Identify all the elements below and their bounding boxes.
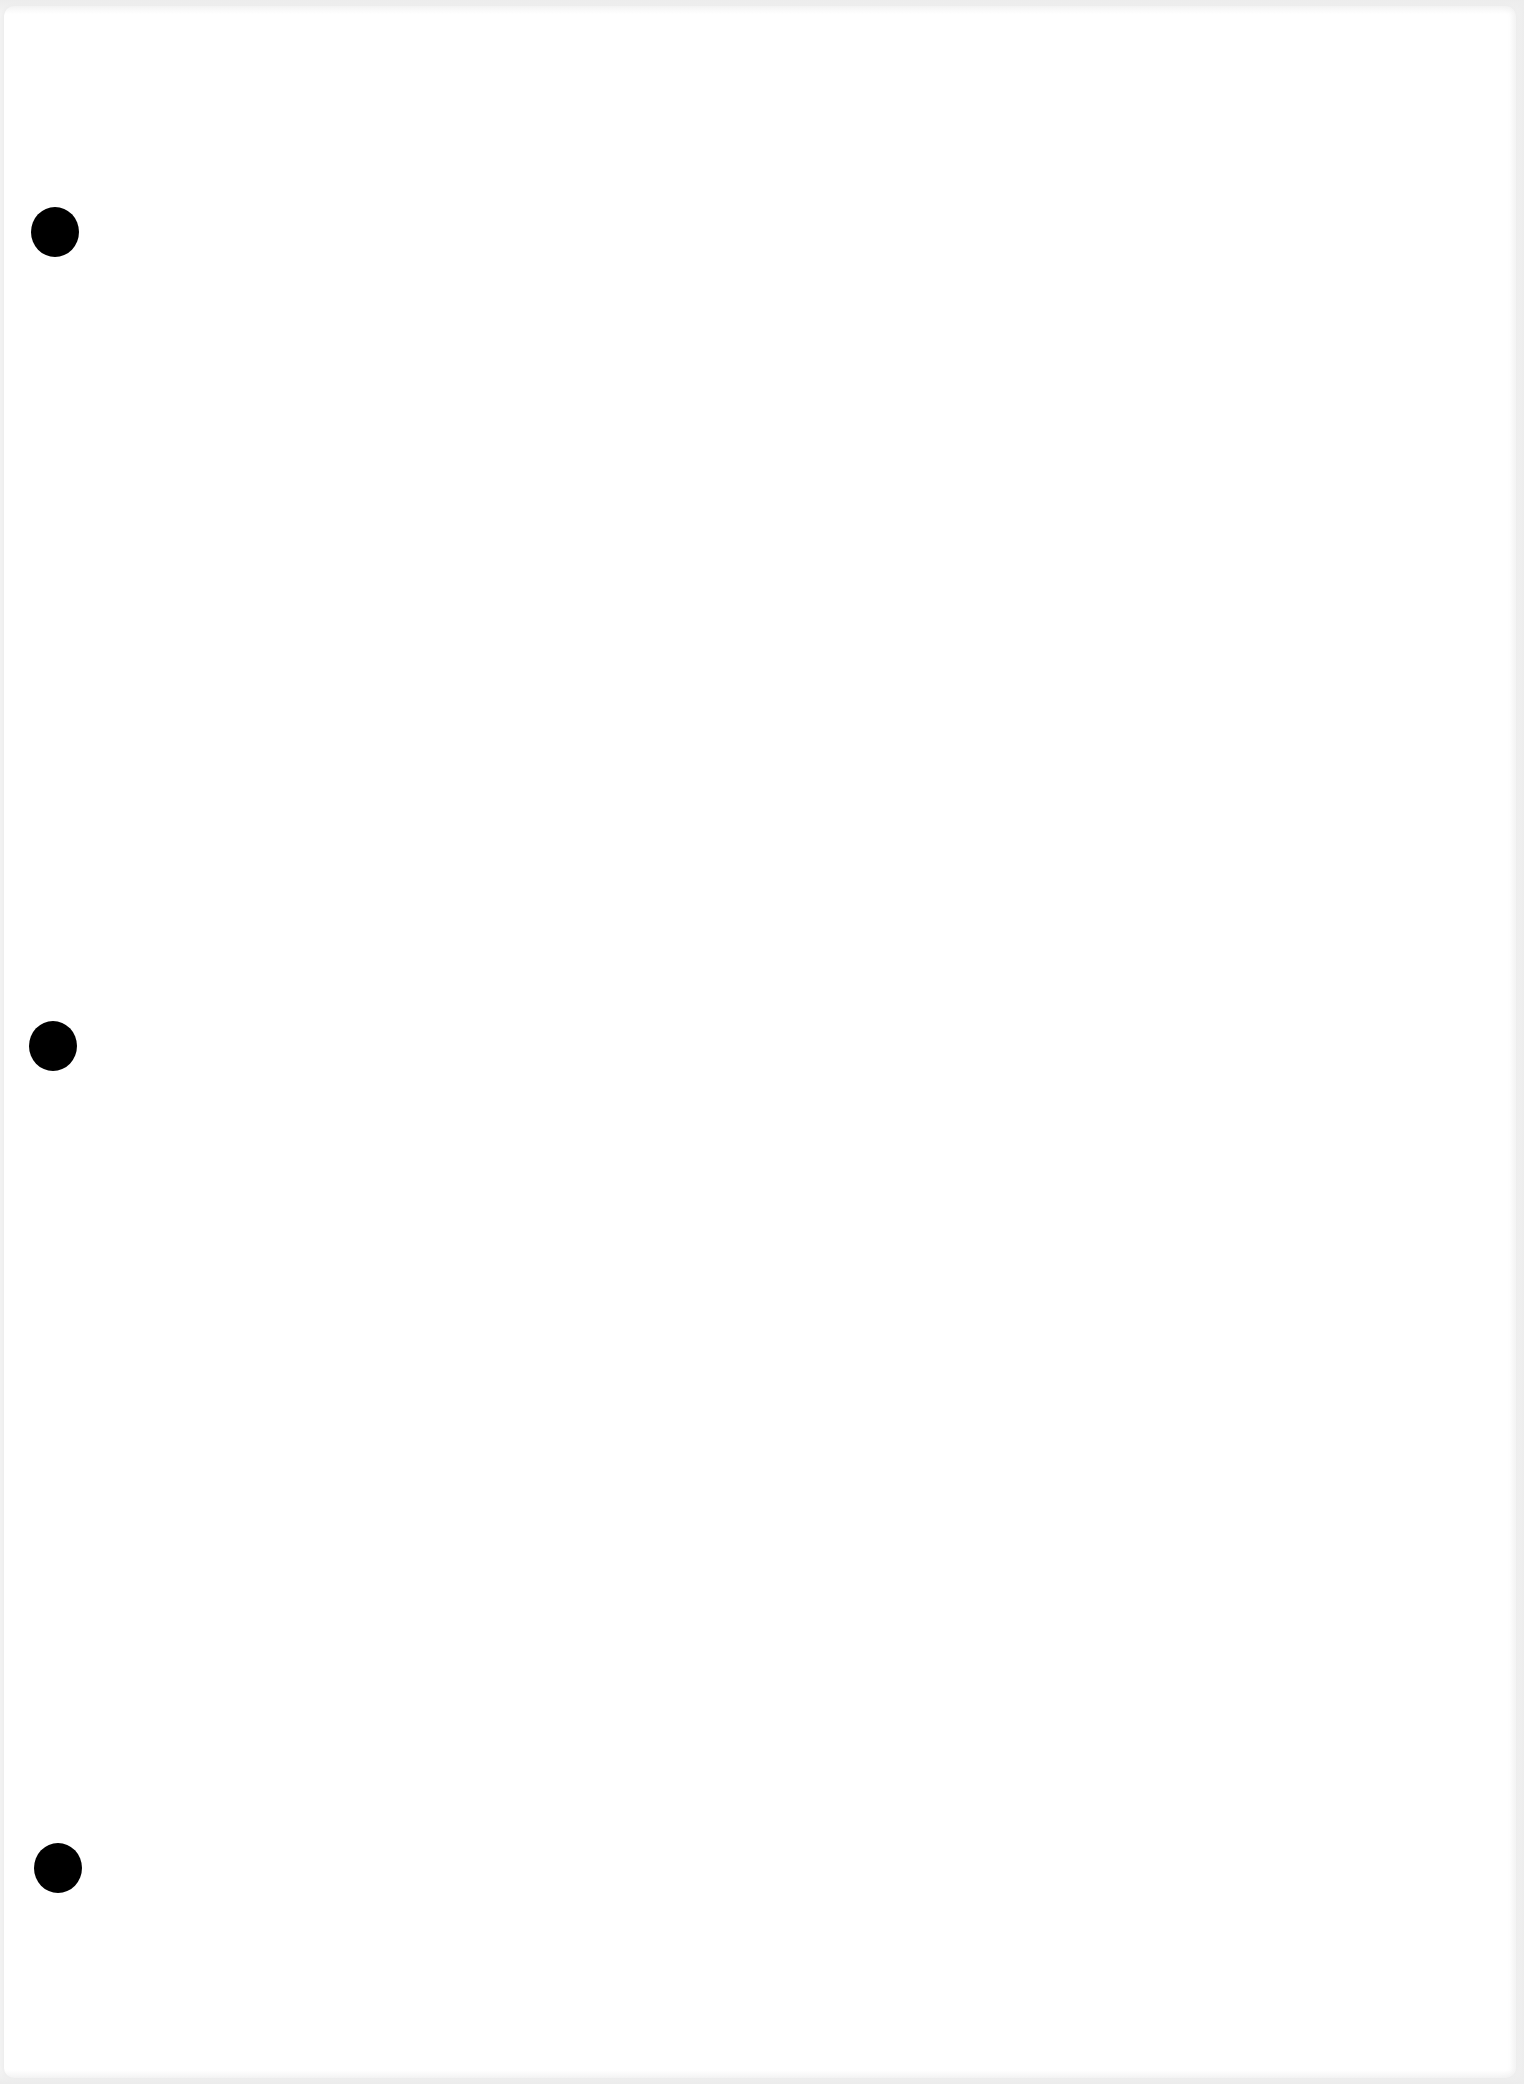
punch-hole-middle (29, 1021, 77, 1071)
punch-hole-top (31, 207, 79, 257)
scan-edge-top (0, 0, 1524, 14)
punch-hole-bottom (34, 1843, 82, 1893)
scan-edge-bottom (0, 2070, 1524, 2084)
scan-edge-right (1510, 0, 1524, 2084)
blank-paper-sheet (4, 6, 1516, 2078)
